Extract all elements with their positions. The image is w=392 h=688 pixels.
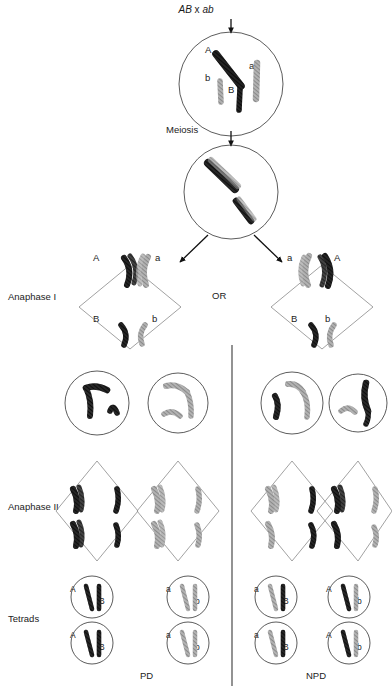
tetrad-cell-right-2 bbox=[255, 622, 297, 664]
meiosis-tetrad-diagram: AB x ab Meiosis OR Anaphase I Anaphase I… bbox=[0, 0, 392, 688]
anaphase1-left-chromosome-b bbox=[141, 325, 145, 344]
tetrad-cell-right-1 bbox=[328, 576, 370, 618]
bivalent-cell-outline bbox=[184, 145, 278, 239]
meiosis2-cell-3 bbox=[261, 372, 323, 434]
meiosis2-cell-1 bbox=[65, 371, 129, 435]
anaphase1-right-chromosome-b bbox=[330, 325, 334, 345]
bivalent-short bbox=[236, 199, 254, 221]
anaphase1-left-chromosome-A bbox=[124, 256, 136, 285]
arrow-branch-left bbox=[180, 235, 208, 262]
tetrad-cell-right-3 bbox=[328, 622, 370, 664]
meiosis2-cell-2 bbox=[148, 373, 208, 433]
diagram-artwork bbox=[0, 0, 392, 688]
arrow-branch-right bbox=[254, 235, 282, 262]
tetrad-cell-left-3 bbox=[167, 622, 209, 664]
parent-cell-outline bbox=[179, 32, 283, 136]
tetrad-cell-left-2 bbox=[71, 622, 113, 664]
tetrad-cell-left-0 bbox=[71, 576, 113, 618]
anaphase1-right-chromosome-a bbox=[301, 256, 309, 285]
meiosis2-cell-4 bbox=[329, 374, 387, 432]
anaphase1-right-chromosome-A bbox=[320, 256, 330, 286]
anaphase1-right-chromosome-B bbox=[311, 325, 316, 345]
tetrad-cell-right-0 bbox=[255, 576, 297, 618]
anaphase2-diamond-2 bbox=[137, 461, 219, 561]
anaphase2-diamond-3 bbox=[251, 461, 333, 561]
bivalent-long bbox=[208, 160, 238, 189]
anaphase2-diamond-1 bbox=[56, 461, 138, 561]
anaphase2-diamond-4 bbox=[317, 461, 392, 561]
parent-chromosome-B bbox=[239, 88, 240, 110]
parent-chromosome-b bbox=[220, 81, 221, 102]
parent-chromosome-a bbox=[256, 63, 257, 99]
anaphase1-left-chromosome-a bbox=[139, 256, 148, 285]
tetrad-cell-left-1 bbox=[167, 576, 209, 618]
